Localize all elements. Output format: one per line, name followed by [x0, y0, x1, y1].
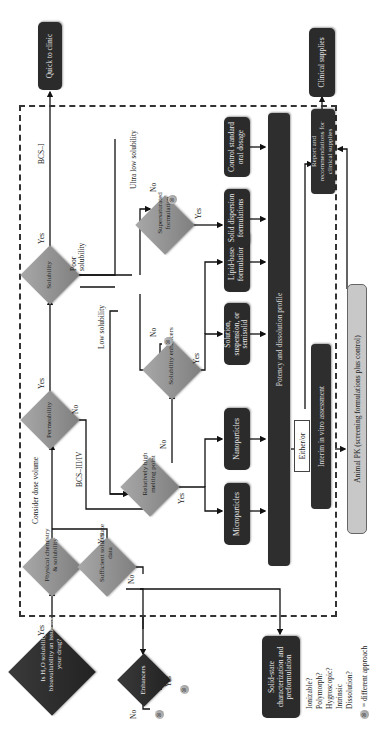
supersaturated-yes-label: Yes: [195, 208, 203, 219]
microparticles-text: Microparticles: [233, 492, 242, 536]
legend: ⊗ = different approach: [360, 646, 369, 719]
animal-pk-text: Animal PK (screening formulations plus c…: [353, 335, 362, 482]
interim-text: Interim in vitro assessment: [317, 386, 326, 467]
potency-text: Potency and dissolution profile: [275, 293, 284, 387]
solid-state-questions: Ionizable? Polymorph? Hygroscopic? Intri…: [305, 667, 355, 709]
enhancers-no-label: No: [150, 328, 158, 337]
legend-text: = different approach: [360, 646, 369, 707]
permeability-decision: Permeability: [20, 390, 80, 450]
solid-state-box: Solid-state characterization and preform…: [262, 636, 300, 718]
different-approach-icon: ⊗: [360, 710, 369, 719]
solid-dispersion-box: Solid dispersion formulations: [224, 189, 250, 247]
microparticles-box: Microparticles: [224, 483, 250, 545]
low-solubility-label: Low solubility: [98, 305, 106, 349]
bcs-i-label: BCS–I: [38, 144, 46, 164]
either-or-text: Either/or: [298, 433, 307, 460]
solid-state-text: Solid-state characterization and preform…: [268, 639, 294, 715]
start-yes-label: Yes: [38, 625, 46, 636]
report-box: Report and recommendations for clinical …: [311, 109, 335, 194]
report-text: Report and recommendations for clinical …: [311, 112, 334, 191]
supersaturated-decision: Supersaturated formulation: [135, 195, 195, 255]
clinical-supplies-box: Clinical supplies: [309, 28, 335, 97]
supersaturated-text: Supersaturated formulation: [135, 171, 195, 255]
enhancers-decision: Enhancers: [117, 653, 171, 707]
start-decision: Is H₂O solubility or bioavailability an …: [8, 628, 96, 716]
solid-dispersion-text: Solid dispersion formulations: [228, 192, 245, 244]
melting-point-text: Relatively high melting point: [120, 431, 180, 517]
enhancers-text: Enhancers: [117, 653, 171, 707]
sufficient-data-decision: Sufficient solid-state data: [77, 537, 137, 597]
question-dissolution: Dissolution?: [345, 667, 355, 709]
control-dosage-box: Control standard oral dosage: [224, 117, 250, 177]
quick-to-clinic-text: Quick to clinic: [46, 34, 55, 79]
question-intrinsic: Intrinsic: [335, 667, 345, 709]
either-or-box: Either/or: [294, 420, 310, 472]
physical-chemistry-decision: Physical chemistry & solubility: [22, 537, 82, 597]
nanoparticles-text: Nanoparticles: [233, 418, 242, 460]
different-approach-icon: ⊗: [168, 195, 177, 204]
sufficient-yes-label: Yes: [98, 533, 106, 544]
question-polymorph: Polymorph?: [315, 667, 325, 709]
question-ionizable: Ionizable?: [305, 667, 315, 709]
physical-chemistry-text: Physical chemistry & solubility: [22, 513, 82, 597]
animal-pk-box: Animal PK (screening formulations plus c…: [347, 284, 367, 534]
permeability-no-label: No: [72, 405, 80, 414]
different-approach-icon: ⊗: [155, 710, 164, 719]
interim-assessment-bar: Interim in vitro assessment: [311, 344, 331, 509]
sufficient-no-label: No: [128, 575, 136, 584]
control-text: Control standard oral dosage: [228, 120, 245, 174]
flowchart-canvas: Is H₂O solubility or bioavailability an …: [0, 0, 381, 749]
nanoparticles-box: Nanoparticles: [224, 408, 250, 470]
poor-solubility-label: Poor solubility: [70, 231, 87, 271]
bcs-iii-iv-label: BCS–III/IV: [76, 452, 84, 487]
melting-no-label: No: [160, 440, 168, 449]
potency-dissolution-bar: Potency and dissolution profile: [268, 113, 290, 566]
solubility-yes-label: Yes: [38, 233, 46, 244]
supersaturated-no-label: No: [150, 183, 158, 192]
permeability-yes-label: Yes: [38, 378, 46, 389]
consider-dose-label: Consider dose volume: [32, 457, 40, 524]
enhancers-yes-label: Yes: [193, 353, 201, 364]
permeability-text: Permeability: [20, 390, 80, 450]
melting-point-decision: Relatively high melting point: [120, 457, 180, 517]
different-approach-icon: ⊗: [180, 685, 189, 694]
solution-box: Solution, suspension, or semisolid: [224, 303, 250, 365]
clinical-supplies-text: Clinical supplies: [318, 37, 327, 87]
solution-text: Solution, suspension, or semisolid: [224, 306, 250, 362]
enhancers-yes-label: Yes: [165, 676, 173, 687]
solubility-enhancers-decision: Solubility enhancers: [142, 340, 202, 400]
start-question-text: Is H₂O solubility or bioavailability an …: [8, 592, 96, 716]
question-hygroscopic: Hygroscopic?: [325, 667, 335, 709]
enhancers-no-label: No: [130, 710, 138, 719]
different-approach-icon: ⊗: [164, 337, 173, 346]
melting-yes-label: Yes: [178, 493, 186, 504]
quick-to-clinic-box: Quick to clinic: [38, 22, 62, 90]
